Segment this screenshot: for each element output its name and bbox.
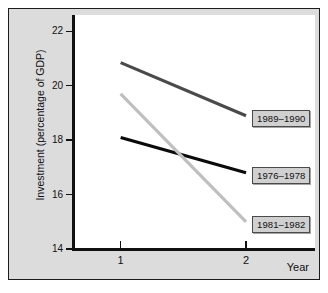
x-axis-line [72, 248, 315, 251]
x-axis-tick [120, 241, 122, 250]
plot-area [73, 15, 315, 249]
series-callout-1989-1990: 1989–1990 [252, 110, 310, 128]
chart-panel: 14 16 18 20 22 1 2 Investment (percentag… [8, 8, 320, 280]
y-axis-tick-label: 14 [29, 244, 63, 254]
y-axis-tick [66, 194, 74, 196]
y-axis-line [72, 15, 75, 251]
series-callout-1981-1982: 1981–1982 [252, 216, 310, 234]
x-axis-tick-label: 2 [236, 254, 256, 266]
x-axis-tick [245, 241, 247, 250]
y-axis-tick [66, 85, 74, 87]
chart-figure: 14 16 18 20 22 1 2 Investment (percentag… [0, 0, 328, 293]
y-axis-tick [66, 31, 74, 33]
y-axis-title: Investment (percentage of GDP) [34, 20, 46, 230]
series-callout-1976-1978: 1976–1978 [252, 167, 310, 185]
x-axis-title: Year [287, 261, 309, 273]
y-axis-tick [66, 248, 74, 250]
y-axis-tick [66, 139, 74, 141]
x-axis-tick-label: 1 [111, 254, 131, 266]
